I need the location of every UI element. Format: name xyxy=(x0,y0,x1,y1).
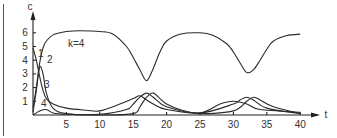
curve-label: 1 xyxy=(38,48,44,59)
x-tick-label: 35 xyxy=(261,119,273,130)
y-tick-label: 4 xyxy=(22,55,28,66)
series-curve-4 xyxy=(33,93,300,115)
x-axis-label: t xyxy=(325,109,328,120)
annotation-k: k=4 xyxy=(68,38,85,49)
curve-label: 3 xyxy=(44,79,50,90)
y-tick-label: 2 xyxy=(22,82,28,93)
y-axis-label: c xyxy=(28,1,33,12)
y-tick-label: 6 xyxy=(22,27,28,38)
y-tick-label: 3 xyxy=(22,68,28,79)
curve-label: 4 xyxy=(41,98,47,109)
x-tick-label: 30 xyxy=(228,119,240,130)
line-chart: ct123456510152025303540k=41234 xyxy=(0,0,337,138)
y-tick-label: 1 xyxy=(22,96,28,107)
x-tick-label: 20 xyxy=(161,119,173,130)
series-curve-3 xyxy=(33,48,300,113)
x-tick-label: 40 xyxy=(295,119,307,130)
series-curve-2 xyxy=(33,66,300,114)
x-tick-label: 5 xyxy=(64,119,70,130)
curve-label: 2 xyxy=(47,54,53,65)
x-tick-label: 10 xyxy=(94,119,106,130)
y-axis-arrow-icon xyxy=(31,11,36,20)
y-tick-label: 5 xyxy=(22,41,28,52)
x-tick-label: 25 xyxy=(194,119,206,130)
x-tick-label: 15 xyxy=(128,119,140,130)
axes xyxy=(31,11,321,118)
x-axis-arrow-icon xyxy=(311,113,320,118)
